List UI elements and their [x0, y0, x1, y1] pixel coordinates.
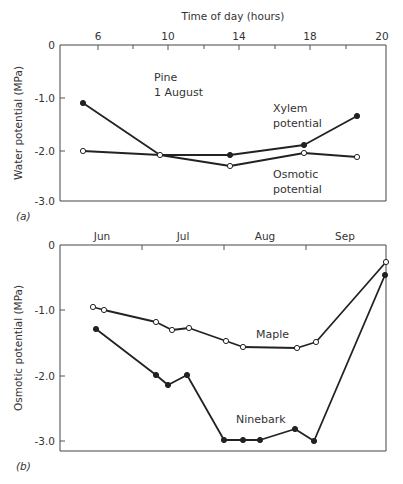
- panel-a-ytick-0: 0: [48, 39, 55, 51]
- panel-b-ytick-2: -2.0: [35, 370, 56, 382]
- figure: Time of day (hours) 6 10 14 18 20 0 -1.0…: [0, 0, 403, 484]
- panel-a-xlabel: Time of day (hours): [181, 10, 285, 22]
- panel-b-frame: [60, 245, 386, 451]
- panel-a-annotation-date: 1 August: [154, 86, 204, 99]
- panel-a-ytick-2: -2.0: [35, 145, 56, 157]
- panel-a-xtick-20: 20: [375, 30, 388, 42]
- panel-b-ytick-3: -3.0: [35, 435, 56, 447]
- series-maple-line: [93, 262, 386, 348]
- panel-a-xtick-6: 6: [95, 30, 102, 42]
- panel-b-xtick-sep: Sep: [335, 230, 355, 242]
- panel-b-xtick-jul: Jul: [176, 230, 190, 242]
- panel-b-ylabel: Osmotic potential (MPa): [12, 285, 24, 411]
- panel-b-top-ticks: [142, 245, 306, 250]
- panel-a-label-xylem-2: potential: [273, 117, 322, 130]
- panel-a-xtick-10: 10: [161, 30, 174, 42]
- panel-a-frame: [60, 45, 386, 201]
- panel-a-annotation-pine: Pine: [154, 71, 177, 84]
- panel-a-label-osmotic-1: Osmotic: [273, 168, 318, 181]
- panel-b-xtick-aug: Aug: [255, 230, 276, 242]
- panel-b-ytick-1: -1.0: [35, 304, 56, 316]
- panel-b-label: (b): [16, 460, 31, 472]
- panel-a-ytick-1: -1.0: [35, 92, 56, 104]
- series-osmotic-markers: [80, 148, 359, 168]
- panel-a-ylabel: Water potential (MPa): [12, 66, 24, 180]
- panel-b-xtick-jun: Jun: [93, 230, 110, 242]
- panel-a-label: (a): [16, 210, 31, 222]
- panel-b-ytick-0: 0: [48, 239, 55, 251]
- panel-b-label-ninebark: Ninebark: [236, 413, 286, 426]
- panel-a-label-xylem-1: Xylem: [273, 102, 308, 115]
- panel-a-y-ticks: [60, 98, 65, 151]
- panel-b: Jun Jul Aug Sep 0 -1.0 -2.0 -3.0 Osmotic…: [12, 230, 389, 472]
- panel-a-top-ticks: [98, 45, 346, 50]
- series-osmotic-line: [83, 151, 357, 166]
- panel-b-y-ticks: [60, 310, 65, 441]
- series-maple-markers: [90, 259, 388, 350]
- panel-a: Time of day (hours) 6 10 14 18 20 0 -1.0…: [12, 10, 389, 222]
- panel-b-label-maple: Maple: [256, 328, 289, 341]
- panel-a-ytick-3: -3.0: [35, 195, 56, 207]
- panel-a-xtick-18: 18: [303, 30, 316, 42]
- panel-a-xtick-14: 14: [232, 30, 246, 42]
- panel-a-label-osmotic-2: potential: [273, 183, 322, 196]
